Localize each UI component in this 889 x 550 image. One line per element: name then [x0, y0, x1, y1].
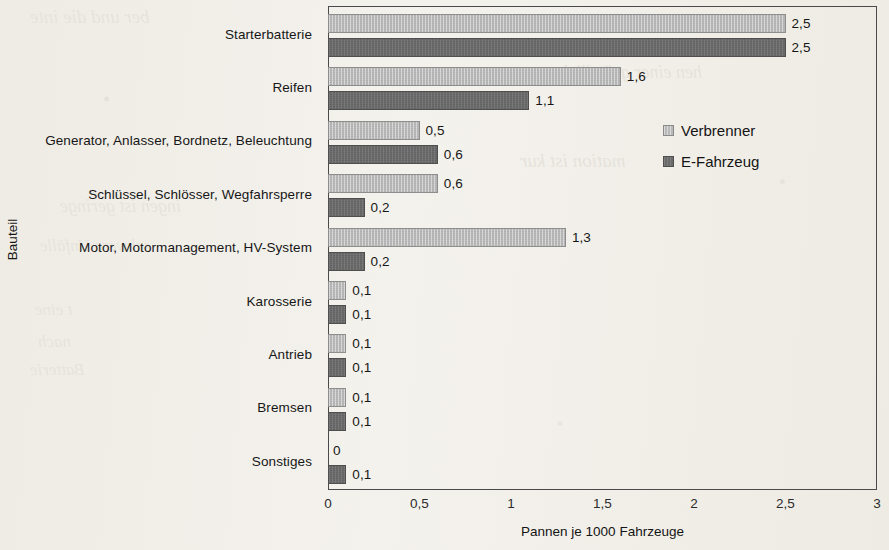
category-label: Schlüssel, Schlösser, Wegfahrsperre — [88, 187, 312, 202]
bar-efahrzeug — [328, 145, 438, 164]
category-bar-group: 2,52,5 — [328, 14, 877, 57]
bar-efahrzeug — [328, 38, 786, 57]
bar-value-label: 0,5 — [426, 123, 445, 138]
legend-swatch-icon — [663, 156, 674, 167]
bar-value-label: 0,1 — [352, 283, 371, 298]
bar-verbrenner — [328, 121, 420, 140]
bar-verbrenner — [328, 174, 438, 193]
bar-row: 0 — [328, 441, 341, 460]
bar-row: 0,6 — [328, 145, 463, 164]
bar-value-label: 1,3 — [572, 230, 591, 245]
x-tick-label: 3 — [873, 496, 881, 511]
bar-efahrzeug — [328, 91, 529, 110]
bar-verbrenner — [328, 334, 346, 353]
bar-efahrzeug — [328, 412, 346, 431]
bar-row: 1,6 — [328, 67, 646, 86]
bar-verbrenner — [328, 67, 621, 86]
bar-row: 0,2 — [328, 198, 390, 217]
bar-row: 0,1 — [328, 388, 371, 407]
bar-value-label: 2,5 — [792, 16, 811, 31]
legend-label: Verbrenner — [681, 122, 755, 139]
bar-value-label: 0,2 — [371, 254, 390, 269]
bar-efahrzeug — [328, 358, 346, 377]
bar-value-label: 0,6 — [444, 147, 463, 162]
bar-row: 0,1 — [328, 334, 371, 353]
category-axis-labels: StarterbatterieReifenGenerator, Anlasser… — [0, 7, 320, 489]
bar-row: 0,1 — [328, 358, 371, 377]
x-axis-tick-labels: 00,511,522,53 — [328, 496, 877, 516]
x-tick-label: 0 — [324, 496, 332, 511]
bar-value-label: 0,6 — [444, 176, 463, 191]
category-label: Reifen — [272, 80, 312, 95]
bar-row: 1,3 — [328, 228, 591, 247]
bar-value-label: 0,1 — [352, 360, 371, 375]
bar-verbrenner — [328, 228, 566, 247]
bar-value-label: 1,1 — [535, 93, 554, 108]
bar-verbrenner — [328, 14, 786, 33]
x-tick-label: 1,5 — [593, 496, 612, 511]
category-bar-group: 1,30,2 — [328, 228, 877, 271]
category-bar-group: 1,61,1 — [328, 67, 877, 110]
category-label: Antrieb — [269, 347, 312, 362]
category-label: Motor, Motormanagement, HV-System — [79, 240, 312, 255]
bar-value-label: 0,1 — [352, 414, 371, 429]
bar-row: 0,1 — [328, 412, 371, 431]
x-axis-title: Pannen je 1000 Fahrzeuge — [328, 524, 877, 539]
category-label: Bremsen — [257, 400, 312, 415]
bar-row: 0,1 — [328, 281, 371, 300]
bar-row: 0,1 — [328, 465, 371, 484]
bar-value-label: 2,5 — [792, 40, 811, 55]
bar-efahrzeug — [328, 305, 346, 324]
category-bar-group: 0,50,6 — [328, 121, 877, 164]
bar-row: 1,1 — [328, 91, 554, 110]
bar-value-label: 0,2 — [371, 200, 390, 215]
bar-row: 0,6 — [328, 174, 463, 193]
bar-verbrenner — [328, 388, 346, 407]
x-tick-label: 0,5 — [410, 496, 429, 511]
category-bar-group: 00,1 — [328, 441, 877, 484]
category-label: Generator, Anlasser, Bordnetz, Beleuchtu… — [45, 133, 312, 148]
x-tick-label: 1 — [507, 496, 515, 511]
bar-efahrzeug — [328, 465, 346, 484]
bar-value-label: 0,1 — [352, 336, 371, 351]
bar-value-label: 0 — [333, 443, 341, 458]
bars-layer: 2,52,51,61,10,50,60,60,21,30,20,10,10,10… — [328, 7, 877, 489]
bar-verbrenner — [328, 281, 346, 300]
category-label: Starterbatterie — [225, 27, 312, 42]
bar-row: 2,5 — [328, 38, 811, 57]
category-bar-group: 0,10,1 — [328, 334, 877, 377]
bar-value-label: 0,1 — [352, 390, 371, 405]
legend-swatch-icon — [663, 125, 674, 136]
bar-row: 2,5 — [328, 14, 811, 33]
category-bar-group: 0,10,1 — [328, 281, 877, 324]
bar-value-label: 0,1 — [352, 467, 371, 482]
legend-label: E-Fahrzeug — [681, 153, 759, 170]
bar-row: 0,2 — [328, 252, 390, 271]
category-label: Sonstiges — [252, 454, 312, 469]
bar-value-label: 1,6 — [627, 69, 646, 84]
category-label: Karosserie — [246, 294, 312, 309]
x-tick-label: 2,5 — [776, 496, 795, 511]
bar-row: 0,1 — [328, 305, 371, 324]
legend-item-verbrenner: Verbrenner — [663, 122, 759, 139]
category-bar-group: 0,10,1 — [328, 388, 877, 431]
legend-item-efahrzeug: E-Fahrzeug — [663, 153, 759, 170]
y-axis-title: Bauteil — [5, 210, 20, 270]
bar-chart-figure: StarterbatterieReifenGenerator, Anlasser… — [0, 0, 889, 550]
chart-legend: VerbrennerE-Fahrzeug — [663, 122, 759, 184]
category-bar-group: 0,60,2 — [328, 174, 877, 217]
bar-efahrzeug — [328, 198, 365, 217]
bar-efahrzeug — [328, 252, 365, 271]
bar-row: 0,5 — [328, 121, 445, 140]
bar-value-label: 0,1 — [352, 307, 371, 322]
x-tick-label: 2 — [690, 496, 698, 511]
